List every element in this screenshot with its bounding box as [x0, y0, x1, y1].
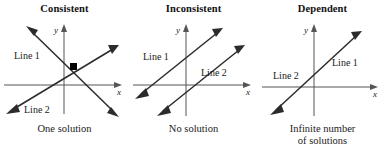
x-axis-dependent — [262, 84, 378, 90]
y-axis-consistent — [61, 24, 67, 114]
plot-dependent: y x Line 1 Line 2 — [258, 16, 387, 122]
panel-title-consistent: Consistent — [0, 2, 129, 15]
line-1-label-inconsistent: Line 1 — [143, 51, 169, 62]
x-axis-label-dependent: x — [372, 89, 377, 99]
caption-line-1: One solution — [0, 123, 129, 135]
line-1-label-dependent: Line 1 — [332, 57, 358, 68]
plot-inconsistent: y x Line 1 Line 2 — [129, 16, 258, 122]
graph-line-1-inconsistent — [135, 28, 223, 99]
panel-dependent: Dependent y — [258, 0, 387, 155]
panel-title-dependent: Dependent — [258, 2, 387, 15]
x-axis-label-consistent: x — [116, 87, 121, 97]
panel-caption-dependent: Infinite number of solutions — [258, 123, 387, 147]
line-2-label-dependent: Line 2 — [273, 70, 299, 81]
systems-classification-figure: Consistent — [0, 0, 387, 155]
y-axis-inconsistent — [183, 24, 189, 116]
intersection-point-marker — [70, 63, 77, 70]
caption-line-1: Infinite number — [258, 123, 387, 135]
y-axis-label-inconsistent: y — [175, 25, 180, 35]
line-2-label-consistent: Line 2 — [24, 104, 50, 115]
caption-line-2: of solutions — [258, 135, 387, 147]
line-1-label-consistent: Line 1 — [14, 50, 40, 61]
caption-line-1: No solution — [129, 123, 258, 135]
y-axis-dependent — [311, 24, 317, 116]
x-axis-label-inconsistent: x — [245, 87, 250, 97]
line-2-label-inconsistent: Line 2 — [201, 67, 227, 78]
panel-title-inconsistent: Inconsistent — [129, 2, 258, 15]
y-axis-label-consistent: y — [53, 25, 58, 35]
graph-line-2-inconsistent — [157, 45, 245, 116]
panel-consistent: Consistent — [0, 0, 129, 155]
panel-inconsistent: Inconsistent — [129, 0, 258, 155]
y-axis-label-dependent: y — [303, 25, 308, 35]
panel-caption-inconsistent: No solution — [129, 123, 258, 135]
panel-caption-consistent: One solution — [0, 123, 129, 135]
plot-consistent: y x Line 1 Line 2 — [0, 16, 129, 122]
x-axis-consistent — [4, 82, 122, 88]
